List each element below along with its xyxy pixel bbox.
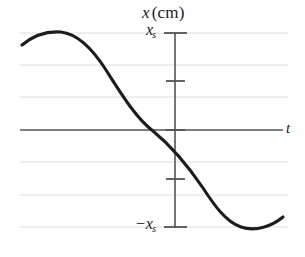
y-axis-title-unit: (cm) <box>152 3 185 22</box>
y-axis-title: x(cm) <box>142 4 185 21</box>
tick-label-positive-amplitude: xs <box>146 22 157 38</box>
tick-label-top-subscript: s <box>152 29 156 40</box>
tick-label-negative-amplitude: −xs <box>135 216 157 232</box>
displacement-time-plot: x(cm) xs −xs t <box>0 0 305 257</box>
tick-label-bottom-subscript: s <box>152 223 156 234</box>
tick-label-bottom-symbol: −x <box>135 215 153 232</box>
x-axis-label: t <box>286 121 290 136</box>
y-axis-title-symbol: x <box>142 3 152 22</box>
